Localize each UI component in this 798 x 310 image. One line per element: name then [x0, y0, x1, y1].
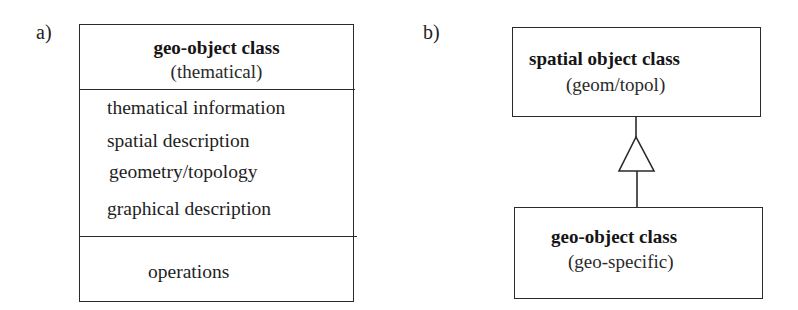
subclass-stereotype: (geo-specific): [568, 251, 674, 273]
subclass-name: geo-object class: [551, 226, 677, 248]
generalization-triangle-icon: [619, 137, 654, 171]
geo-object-class-box-geo-specific: geo-object class (geo-specific): [514, 207, 763, 299]
